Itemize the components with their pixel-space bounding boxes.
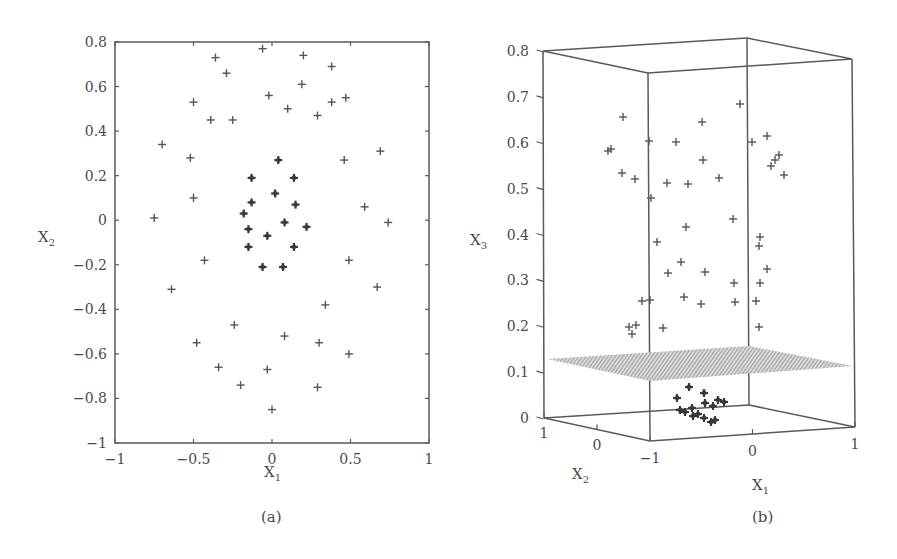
z-tick-label: 0.1 <box>507 364 529 380</box>
data-point <box>673 394 681 402</box>
data-point <box>268 406 276 414</box>
data-point <box>345 350 353 358</box>
data-point <box>259 263 267 271</box>
data-point <box>328 63 336 71</box>
x-tick-label: −1 <box>105 451 126 467</box>
data-point <box>682 223 690 231</box>
data-point <box>292 201 300 209</box>
data-point <box>663 179 671 187</box>
data-point <box>628 330 636 338</box>
y-tick-label: 0.2 <box>85 168 107 184</box>
x-tick-label: 0 <box>748 443 757 459</box>
data-point <box>207 116 215 124</box>
separating-plane <box>547 346 853 381</box>
data-point <box>715 174 723 182</box>
data-point <box>321 301 329 309</box>
data-point <box>248 174 256 182</box>
data-point <box>361 203 369 211</box>
data-point <box>229 116 237 124</box>
y-tick-label: −0.6 <box>73 346 107 362</box>
data-point <box>298 80 306 88</box>
data-point <box>244 225 252 233</box>
data-point <box>755 323 763 331</box>
data-point <box>699 156 707 164</box>
data-point <box>645 137 653 145</box>
z-tick-label: 0.7 <box>507 89 529 105</box>
data-point <box>384 218 392 226</box>
y-tick-label: 0.4 <box>85 123 107 139</box>
data-point <box>680 293 688 301</box>
plot-b-ylabel: X2 <box>572 465 589 485</box>
data-point <box>625 323 633 331</box>
data-point <box>631 175 639 183</box>
data-point <box>373 283 381 291</box>
data-point <box>168 285 176 293</box>
plot-b: 0.80.70.60.50.40.30.20.10−10110 X3 X2 X1… <box>470 38 859 526</box>
data-point <box>771 156 779 164</box>
data-point <box>618 169 626 177</box>
data-point <box>279 263 287 271</box>
data-point <box>619 113 627 121</box>
y-tick-label: −0.2 <box>73 257 107 273</box>
data-point <box>281 332 289 340</box>
y-tick-label: 1 <box>540 425 549 441</box>
plot-a-xlabel: X1 <box>264 463 281 483</box>
data-point <box>150 214 158 222</box>
data-point <box>281 218 289 226</box>
data-point <box>186 154 194 162</box>
plot-a-caption: (a) <box>261 508 282 526</box>
plot-b-zlabel: X3 <box>470 231 487 251</box>
plot-a-ticks: −1−0.500.510.80.60.40.20−0.2−0.4−0.6−0.8… <box>73 34 433 467</box>
data-point <box>646 296 654 304</box>
plot-a: −1−0.500.510.80.60.40.20−0.2−0.4−0.6−0.8… <box>38 34 433 526</box>
data-point <box>263 365 271 373</box>
data-point <box>314 112 322 120</box>
data-point <box>299 51 307 59</box>
plot-a-frame <box>115 42 429 443</box>
data-point <box>729 215 737 223</box>
plot-a-points <box>150 45 392 414</box>
data-point <box>755 242 763 250</box>
data-point <box>730 279 738 287</box>
data-point <box>677 258 685 266</box>
data-point <box>290 174 298 182</box>
data-point <box>780 171 788 179</box>
data-point <box>653 238 661 246</box>
z-tick-label: 0.6 <box>507 135 529 151</box>
data-point <box>697 300 705 308</box>
data-point <box>376 147 384 155</box>
x-tick-label: 1 <box>425 451 434 467</box>
data-point <box>756 233 764 241</box>
data-point <box>756 279 764 287</box>
data-point <box>736 100 744 108</box>
data-point <box>700 389 708 397</box>
figure: −1−0.500.510.80.60.40.20−0.2−0.4−0.6−0.8… <box>0 0 897 559</box>
x-tick-label: −1 <box>640 450 661 466</box>
data-point <box>190 98 198 106</box>
data-point <box>752 297 760 305</box>
data-point <box>731 298 739 306</box>
data-point <box>701 268 709 276</box>
data-point <box>314 383 322 391</box>
data-point <box>632 321 640 329</box>
z-tick-label: 0.8 <box>507 43 529 59</box>
data-point <box>748 138 756 146</box>
data-point <box>259 45 267 53</box>
data-point <box>328 98 336 106</box>
data-point <box>664 269 672 277</box>
data-point <box>190 194 198 202</box>
data-point <box>763 265 771 273</box>
data-point <box>709 402 717 410</box>
z-tick-label: 0.3 <box>507 272 529 288</box>
data-point <box>265 91 273 99</box>
data-point <box>263 232 271 240</box>
data-point <box>248 198 256 206</box>
plot-b-ticks: 0.80.70.60.50.40.30.20.10−10110 <box>507 43 860 466</box>
data-point <box>659 324 667 332</box>
data-point <box>237 381 245 389</box>
y-tick-label: −0.8 <box>73 390 107 406</box>
data-point <box>340 156 348 164</box>
y-tick-label: 0 <box>98 212 107 228</box>
data-point <box>193 339 201 347</box>
y-tick-label: 0 <box>593 437 602 453</box>
